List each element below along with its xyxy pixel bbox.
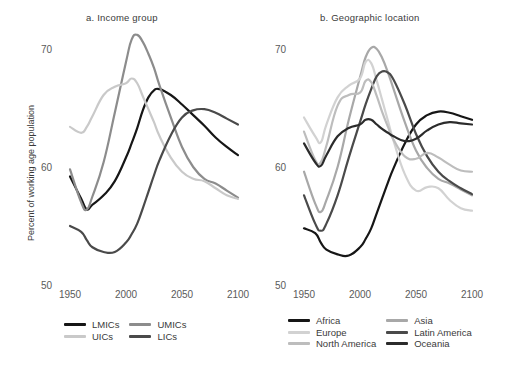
legend-label: LMICs — [92, 320, 119, 330]
legend-item-europe[interactable]: Europe — [288, 328, 376, 338]
legend-label: North America — [316, 339, 376, 349]
legend-label: Africa — [316, 316, 340, 326]
legend-label: LICs — [157, 332, 177, 342]
legend-swatch-icon — [386, 331, 408, 334]
legend-label: UICs — [92, 332, 113, 342]
legend-swatch-icon — [64, 335, 86, 338]
legend-item-asia[interactable]: Asia — [386, 316, 472, 326]
legend-item-lmics[interactable]: LMICs — [64, 320, 119, 330]
legend-label: Europe — [316, 328, 347, 338]
series-line-lics — [70, 109, 238, 253]
y-tick-b-70: 70 — [262, 44, 286, 55]
legend-item-uics[interactable]: UICs — [64, 332, 119, 342]
panel-a-title: a. Income group — [86, 12, 158, 23]
legend-swatch-icon — [288, 331, 310, 334]
legend-label: UMICs — [157, 320, 186, 330]
legend-item-oceania[interactable]: Oceania — [386, 339, 472, 349]
legend-label: Latin America — [414, 328, 472, 338]
panel-a-lines — [55, 30, 265, 292]
panel-a-legend: LMICsUMICsUICsLICs — [64, 320, 186, 341]
series-line-north-america — [304, 79, 472, 171]
legend-item-latin-america[interactable]: Latin America — [386, 328, 472, 338]
legend-swatch-icon — [64, 323, 86, 326]
y-tick-50: 50 — [28, 280, 52, 291]
panel-b-lines — [289, 30, 499, 292]
y-tick-b-60: 60 — [262, 162, 286, 173]
legend-item-lics[interactable]: LICs — [129, 332, 186, 342]
y-tick-60: 60 — [28, 162, 52, 173]
legend-swatch-icon — [386, 342, 408, 345]
legend-swatch-icon — [386, 319, 408, 322]
y-axis-label: Percent of working age population — [26, 58, 36, 288]
legend-label: Oceania — [414, 339, 449, 349]
series-line-uics — [70, 79, 238, 199]
legend-swatch-icon — [288, 319, 310, 322]
legend-item-umics[interactable]: UMICs — [129, 320, 186, 330]
panel-b-plot — [289, 30, 499, 292]
legend-swatch-icon — [288, 342, 310, 345]
y-tick-b-50: 50 — [262, 280, 286, 291]
figure-root: a. Income group b. Geographic location P… — [0, 0, 525, 367]
panel-b-legend: AfricaAsiaEuropeLatin AmericaNorth Ameri… — [288, 316, 472, 349]
panel-b-title: b. Geographic location — [320, 12, 419, 23]
legend-swatch-icon — [129, 323, 151, 326]
legend-label: Asia — [414, 316, 432, 326]
legend-item-africa[interactable]: Africa — [288, 316, 376, 326]
legend-swatch-icon — [129, 335, 151, 338]
legend-item-north-america[interactable]: North America — [288, 339, 376, 349]
panel-a-plot — [55, 30, 265, 292]
y-tick-70: 70 — [28, 44, 52, 55]
